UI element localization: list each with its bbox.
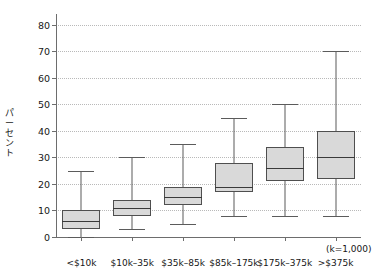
box-iqr-rect[interactable] [62,210,100,229]
x-tick-mark [285,237,286,241]
y-tick-label: 0 [44,232,50,243]
upper-whisker-cap [68,171,94,172]
box-plot-item[interactable] [56,14,107,237]
upper-whisker-line [284,104,285,146]
y-tick-label: 40 [38,125,50,136]
upper-whisker-line [81,171,82,211]
x-tick-label: $35k–85k [161,258,205,268]
x-tick-mark [336,237,337,241]
lower-whisker-line [183,205,184,224]
median-line [215,187,253,188]
y-tick-label: 50 [38,99,50,110]
lower-whisker-cap [221,216,247,217]
lower-whisker-line [284,181,285,216]
y-tick-label: 10 [38,205,50,216]
y-tick-label: 80 [38,19,50,30]
lower-whisker-line [81,229,82,237]
median-line [62,221,100,222]
box-plot-item[interactable] [310,14,361,237]
median-line [113,208,151,209]
upper-whisker-line [183,144,184,186]
upper-whisker-cap [272,104,298,105]
lower-whisker-cap [119,229,145,230]
box-iqr-rect[interactable] [164,187,202,206]
lower-whisker-line [132,216,133,229]
x-axis-line [56,237,361,238]
lower-whisker-cap [170,224,196,225]
x-tick-mark [81,237,82,241]
upper-whisker-cap [221,118,247,119]
lower-whisker-line [233,192,234,216]
x-axis-note: (k=1,000) [326,244,372,254]
box-plot-chart: パ ー セ ン ト 01020304050607080 <$10k$10k–35… [0,0,381,268]
lower-whisker-line [335,179,336,216]
box-iqr-rect[interactable] [317,131,355,179]
upper-whisker-cap [119,157,145,158]
box-plot-item[interactable] [259,14,310,237]
y-tick-label: 60 [38,72,50,83]
box-plot-item[interactable] [158,14,209,237]
x-tick-label: <$10k [66,258,96,268]
x-tick-label: $175k–375k [257,258,312,268]
box-iqr-rect[interactable] [266,147,304,182]
plot-area: 01020304050607080 <$10k$10k–35k$35k–85k$… [56,14,361,237]
x-tick-mark [132,237,133,241]
upper-whisker-cap [170,144,196,145]
upper-whisker-line [335,51,336,131]
upper-whisker-line [132,157,133,199]
y-tick-label: 20 [38,178,50,189]
x-tick-mark [234,237,235,241]
x-tick-label: >$375k [318,258,354,268]
y-tick-label: 30 [38,152,50,163]
box-plot-item[interactable] [209,14,260,237]
lower-whisker-cap [272,216,298,217]
x-tick-label: $85k–175k [209,258,258,268]
y-axis-title: パ ー セ ン ト [2,108,16,158]
median-line [164,197,202,198]
upper-whisker-cap [323,51,349,52]
upper-whisker-line [233,118,234,163]
y-tick-mark [52,237,56,238]
lower-whisker-cap [323,216,349,217]
x-tick-mark [183,237,184,241]
median-line [317,157,355,158]
median-line [266,168,304,169]
y-tick-label: 70 [38,46,50,57]
box-plot-item[interactable] [107,14,158,237]
x-tick-label: $10k–35k [110,258,154,268]
